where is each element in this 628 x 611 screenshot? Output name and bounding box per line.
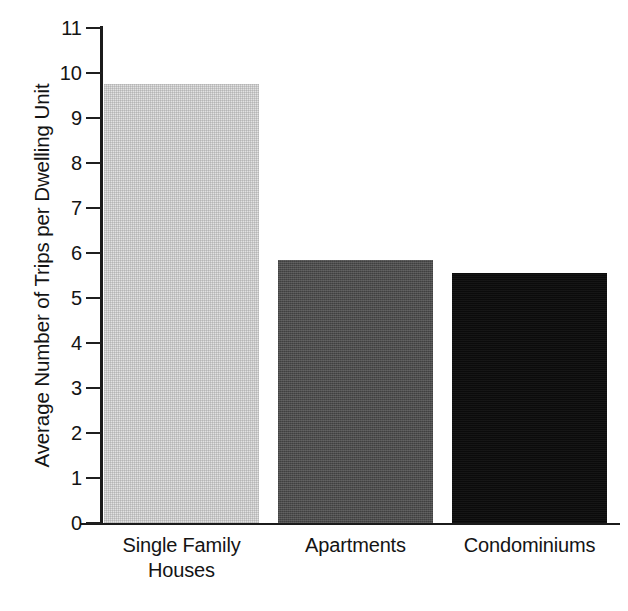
y-tick-mark [86, 297, 102, 299]
y-tick-label-wrap: 8 [40, 153, 82, 173]
y-tick-label-wrap: 6 [40, 243, 82, 263]
y-tick-label: 11 [48, 18, 82, 38]
y-tick-mark [86, 522, 102, 524]
y-tick-label-wrap: 7 [40, 198, 82, 218]
bar-apartments[interactable] [278, 260, 433, 523]
y-tick-label: 7 [48, 198, 82, 218]
x-axis-label-line: Condominiums [434, 533, 625, 558]
y-tick-label: 1 [48, 468, 82, 488]
y-tick-label-wrap: 9 [40, 108, 82, 128]
bar-single-family-houses[interactable] [104, 84, 259, 523]
y-tick-label: 2 [48, 423, 82, 443]
y-tick-label: 9 [48, 108, 82, 128]
y-tick-mark [86, 117, 102, 119]
bar-chart-figure: Average Number of Trips per Dwelling Uni… [0, 0, 628, 611]
y-tick-label-wrap: 11 [40, 18, 82, 38]
y-tick-label: 3 [48, 378, 82, 398]
y-tick-mark [86, 252, 102, 254]
x-axis-label-apartments: Apartments [260, 533, 451, 558]
x-axis-label-single-family-houses: Single FamilyHouses [86, 533, 277, 583]
y-tick-mark [86, 27, 102, 29]
x-axis-label-condominiums: Condominiums [434, 533, 625, 558]
y-tick-mark [86, 432, 102, 434]
x-axis-label-line: Houses [86, 558, 277, 583]
y-tick-label: 0 [48, 513, 82, 533]
y-tick-label-wrap: 3 [40, 378, 82, 398]
y-tick-label: 4 [48, 333, 82, 353]
y-axis-title: Average Number of Trips per Dwelling Uni… [22, 28, 62, 523]
y-tick-mark [86, 477, 102, 479]
y-tick-label-wrap: 5 [40, 288, 82, 308]
y-tick-label-wrap: 10 [40, 63, 82, 83]
plot-area [103, 28, 613, 523]
x-axis-label-line: Single Family [86, 533, 277, 558]
y-tick-label: 6 [48, 243, 82, 263]
y-tick-mark [86, 387, 102, 389]
x-axis-label-line: Apartments [260, 533, 451, 558]
y-tick-label-wrap: 0 [40, 513, 82, 533]
y-tick-label-wrap: 2 [40, 423, 82, 443]
y-tick-mark [86, 162, 102, 164]
y-tick-mark [86, 207, 102, 209]
y-tick-mark [86, 342, 102, 344]
y-tick-label: 5 [48, 288, 82, 308]
y-tick-label: 8 [48, 153, 82, 173]
bar-condominiums[interactable] [452, 273, 607, 523]
y-tick-mark [86, 72, 102, 74]
y-tick-label: 10 [48, 63, 82, 83]
y-tick-label-wrap: 1 [40, 468, 82, 488]
y-tick-label-wrap: 4 [40, 333, 82, 353]
x-axis-line [80, 523, 620, 525]
